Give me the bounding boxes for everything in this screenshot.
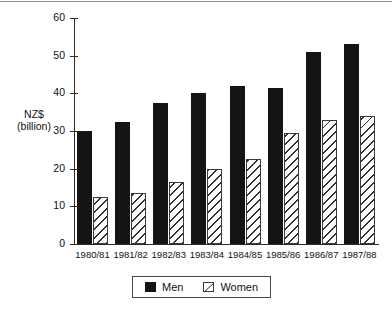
bar-women xyxy=(207,169,222,244)
bar-men xyxy=(306,52,321,244)
bar-men xyxy=(77,131,92,244)
bar-men xyxy=(268,88,283,244)
y-axis-tick-label: 30 xyxy=(53,124,65,137)
bar-group xyxy=(306,18,344,244)
x-axis-tick-label: 1987/88 xyxy=(338,249,381,261)
bar-women xyxy=(322,120,337,244)
y-axis-label-line-1: NZ$ xyxy=(6,108,62,120)
chart-legend: Men Women xyxy=(132,276,271,298)
x-axis-tick-label: 1983/84 xyxy=(185,249,228,261)
y-axis-tick-label: 0 xyxy=(59,237,65,250)
bar-group xyxy=(344,18,382,244)
y-axis-tick-label: 60 xyxy=(53,11,65,24)
bar-group xyxy=(115,18,153,244)
legend-item-men: Men xyxy=(145,281,183,294)
legend-label-men: Men xyxy=(162,281,183,294)
bar-women xyxy=(169,182,184,244)
x-axis-tick-label: 1981/82 xyxy=(109,249,152,261)
y-axis-tick-label: 50 xyxy=(53,49,65,62)
bar-group xyxy=(77,18,115,244)
x-axis-tick-label: 1982/83 xyxy=(147,249,190,261)
y-axis-tick-label: 40 xyxy=(53,86,65,99)
bar-women xyxy=(131,193,146,244)
bar-men xyxy=(230,86,245,244)
plot-area: 0102030405060 1980/811981/821982/831983/… xyxy=(74,18,379,244)
x-axis-tick-label: 1980/81 xyxy=(71,249,114,261)
bar-women xyxy=(360,116,375,244)
y-axis-tick-label: 20 xyxy=(53,162,65,175)
x-axis-tick-label: 1985/86 xyxy=(262,249,305,261)
chart-figure: NZ$ (billion) 0102030405060 1980/811981/… xyxy=(0,0,392,312)
y-axis-tick-label: 10 xyxy=(53,199,65,212)
x-axis-line xyxy=(74,244,379,245)
x-axis-tick-label: 1986/87 xyxy=(300,249,343,261)
x-axis-tick-label: 1984/85 xyxy=(224,249,267,261)
bar-group xyxy=(268,18,306,244)
legend-item-women: Women xyxy=(203,281,258,294)
y-axis-tick: 0 xyxy=(70,244,78,245)
top-divider xyxy=(0,1,392,2)
legend-label-women: Women xyxy=(220,281,258,294)
legend-swatch-men-icon xyxy=(145,282,156,292)
bar-men xyxy=(344,44,359,244)
bar-women xyxy=(93,197,108,244)
bar-group xyxy=(230,18,268,244)
legend-swatch-women-icon xyxy=(203,282,214,292)
bar-women xyxy=(284,133,299,244)
bar-group xyxy=(153,18,191,244)
bar-men xyxy=(191,93,206,244)
bar-men xyxy=(115,122,130,244)
bar-group xyxy=(191,18,229,244)
bar-women xyxy=(246,159,261,244)
bar-men xyxy=(153,103,168,244)
